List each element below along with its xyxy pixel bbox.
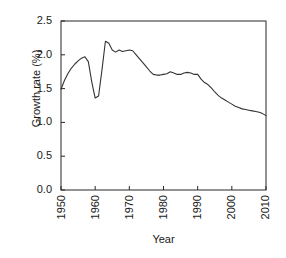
y-tick-marks <box>61 21 65 190</box>
chart-figure: Growth rate (%) Year 2.5 2.0 1.5 1.0 0.5… <box>0 0 286 258</box>
plot-area <box>0 0 286 258</box>
x-tick-marks <box>61 186 266 190</box>
axes-frame <box>61 21 266 190</box>
data-series-line <box>61 41 266 115</box>
